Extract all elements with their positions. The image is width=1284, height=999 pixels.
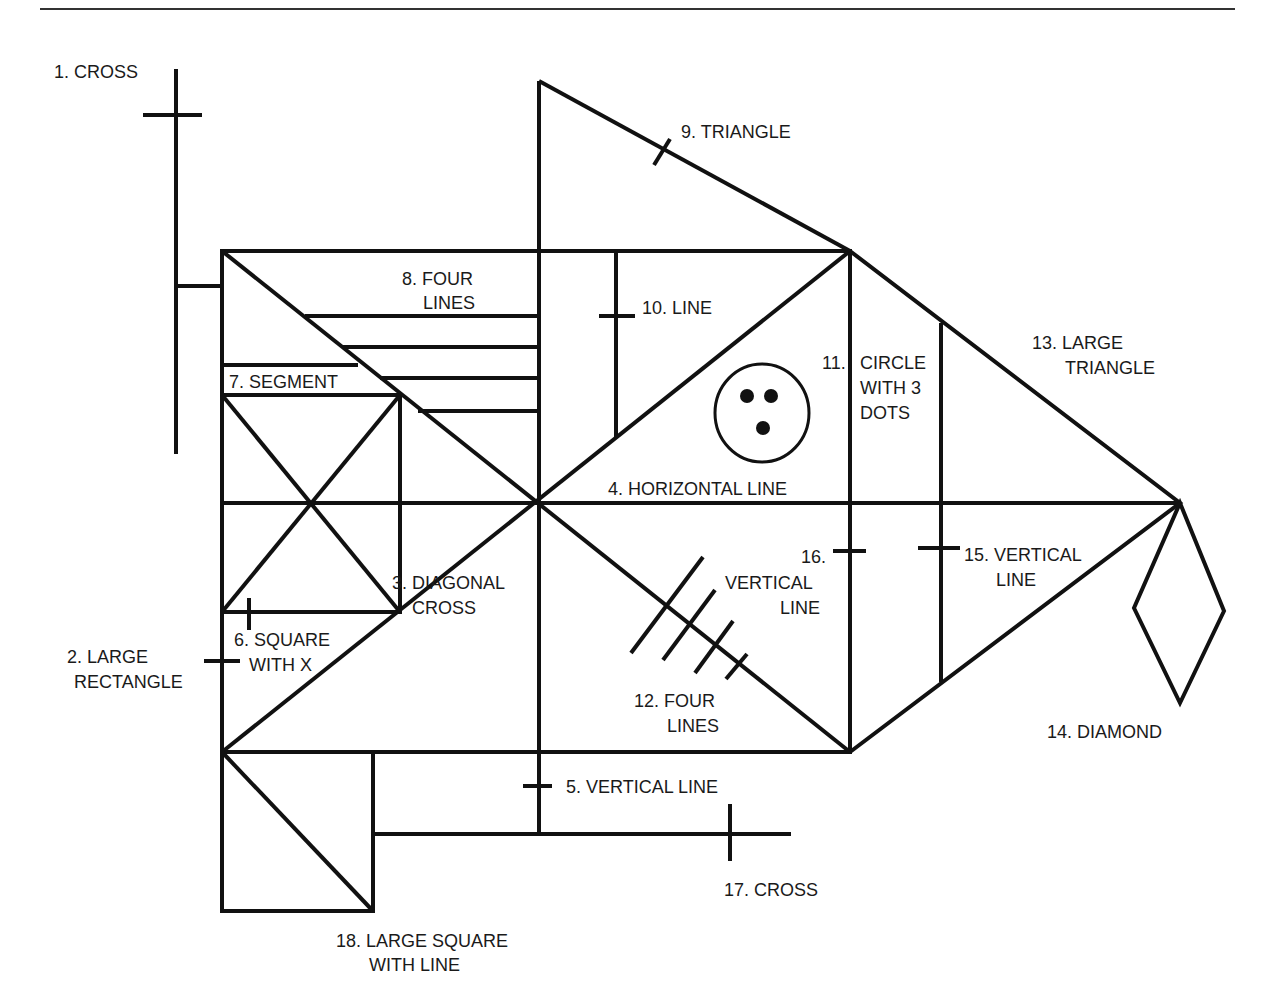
label-7-segment: 7. SEGMENT xyxy=(229,370,338,395)
label-3-diagonal-cross-line2: CROSS xyxy=(412,596,476,621)
label-8-four-lines-line2: LINES xyxy=(423,291,475,316)
element-5-vertical-line xyxy=(523,81,552,834)
element-11-circle-with-3-dots xyxy=(715,364,809,462)
label-13-large-triangle-line1: 13. LARGE xyxy=(1032,331,1123,356)
label-17-cross: 17. CROSS xyxy=(724,878,818,903)
label-3-diagonal-cross-line1: 3. DIAGONAL xyxy=(392,571,505,596)
element-9-triangle xyxy=(539,81,850,251)
element-18-large-square-with-line xyxy=(222,752,373,911)
label-14-diamond: 14. DIAMOND xyxy=(1047,720,1162,745)
label-15-vertical-line-line2: LINE xyxy=(996,568,1036,593)
label-16-vertical-line-line2: LINE xyxy=(780,596,820,621)
element-1-cross xyxy=(143,69,222,454)
label-2-large-rectangle-line2: RECTANGLE xyxy=(74,670,183,695)
label-5-vertical-line: 5. VERTICAL LINE xyxy=(566,775,718,800)
label-9-triangle: 9. TRIANGLE xyxy=(681,120,791,145)
label-1-cross: 1. CROSS xyxy=(54,60,138,85)
label-16-number: 16. xyxy=(801,545,826,570)
element-17-cross xyxy=(373,804,791,861)
label-6-square-with-x-line1: 6. SQUARE xyxy=(234,628,330,653)
label-4-horizontal-line: 4. HORIZONTAL LINE xyxy=(608,477,787,502)
label-16-vertical-line-line1: VERTICAL xyxy=(725,571,813,596)
label-2-large-rectangle-line1: 2. LARGE xyxy=(67,645,148,670)
label-10-line: 10. LINE xyxy=(642,296,712,321)
label-11-circle-line1: CIRCLE xyxy=(860,351,926,376)
label-6-square-with-x-line2: WITH X xyxy=(249,653,312,678)
element-14-diamond xyxy=(1134,503,1224,703)
label-11-circle-line2: WITH 3 xyxy=(860,376,921,401)
element-6-square-with-x xyxy=(222,395,400,630)
label-11-number: 11. xyxy=(822,351,846,376)
label-18-large-square-line2: WITH LINE xyxy=(369,953,460,978)
label-15-vertical-line-line1: 15. VERTICAL xyxy=(964,543,1082,568)
label-8-four-lines-line1: 8. FOUR xyxy=(402,267,473,292)
label-11-circle-line3: DOTS xyxy=(860,401,910,426)
label-12-four-lines-line2: LINES xyxy=(667,714,719,739)
element-10-line xyxy=(599,251,635,438)
label-18-large-square-line1: 18. LARGE SQUARE xyxy=(336,929,508,954)
label-13-large-triangle-line2: TRIANGLE xyxy=(1065,356,1155,381)
label-12-four-lines-line1: 12. FOUR xyxy=(634,689,715,714)
